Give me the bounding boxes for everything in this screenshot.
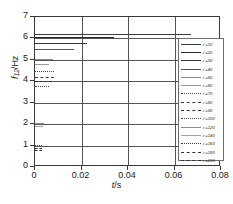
- legend-line-swatch: [181, 160, 201, 161]
- data-trace: [35, 150, 42, 151]
- x-tick-label: 0.02: [61, 170, 101, 180]
- x-tick-label: 0.08: [200, 170, 233, 180]
- grid-line-vertical: [175, 17, 176, 165]
- data-trace: [35, 145, 42, 146]
- legend-line-swatch: [181, 69, 201, 70]
- data-trace: [35, 71, 54, 72]
- legend-item[interactable]: t =90: [180, 106, 222, 114]
- data-trace: [35, 37, 114, 38]
- data-trace: [35, 86, 49, 87]
- y-tick-label: 1: [4, 140, 28, 149]
- legend-line-swatch: [181, 152, 201, 153]
- x-tick-label: 0: [14, 170, 54, 180]
- legend-line-swatch: [181, 77, 201, 78]
- y-tick-label: 2: [4, 118, 28, 127]
- legend-item-label: t =90: [203, 108, 212, 113]
- legend-line-swatch: [181, 127, 201, 128]
- legend-item[interactable]: t =30: [180, 57, 222, 65]
- legend-item-label: t =160: [203, 141, 215, 146]
- legend-item-label: t =180: [203, 150, 215, 155]
- legend-item[interactable]: t =200: [180, 156, 222, 164]
- legend-item-label: t =100: [203, 116, 215, 121]
- legend-item-label: t =120: [203, 125, 215, 130]
- chart-legend: t =10t =20t =30t =40t =50t =60t =70t =80…: [178, 38, 224, 161]
- data-trace: [35, 59, 53, 60]
- legend-item[interactable]: t =50: [180, 73, 222, 81]
- legend-item[interactable]: t =180: [180, 148, 222, 156]
- legend-line-swatch: [181, 135, 201, 136]
- legend-line-swatch: [181, 110, 201, 111]
- legend-item-label: t =80: [203, 100, 212, 105]
- legend-item-label: t =60: [203, 83, 212, 88]
- legend-line-swatch: [181, 118, 201, 119]
- legend-item[interactable]: t =20: [180, 48, 222, 56]
- legend-item[interactable]: t =80: [180, 98, 222, 106]
- figure-container: f12/Hz 01234567 00.020.040.060.08 t/s t …: [0, 0, 233, 204]
- y-tick-label: 0: [4, 161, 28, 170]
- legend-line-swatch: [181, 44, 201, 45]
- legend-line-swatch: [181, 102, 201, 103]
- legend-item[interactable]: t =10: [180, 40, 222, 48]
- legend-line-swatch: [181, 93, 201, 94]
- x-axis-title: t/s: [0, 180, 233, 190]
- legend-item[interactable]: t =120: [180, 123, 222, 131]
- legend-item[interactable]: t =160: [180, 140, 222, 148]
- legend-item-label: t =30: [203, 58, 212, 63]
- legend-item[interactable]: t =100: [180, 115, 222, 123]
- legend-line-swatch: [181, 143, 201, 144]
- x-axis-title-unit: /s: [114, 180, 121, 190]
- legend-item-label: t =40: [203, 67, 212, 72]
- legend-item[interactable]: t =70: [180, 90, 222, 98]
- data-trace: [35, 77, 54, 78]
- legend-item[interactable]: t =140: [180, 131, 222, 139]
- data-trace: [35, 34, 191, 35]
- legend-item-label: t =50: [203, 75, 212, 80]
- data-trace: [35, 49, 74, 50]
- x-tick-label: 0.06: [154, 170, 194, 180]
- legend-item-label: t =200: [203, 158, 215, 163]
- data-trace: [35, 123, 44, 124]
- y-tick-label: 5: [4, 54, 28, 63]
- legend-line-swatch: [181, 60, 201, 61]
- y-tick-label: 4: [4, 75, 28, 84]
- legend-item-label: t =70: [203, 91, 212, 96]
- y-tick-label: 6: [4, 32, 28, 41]
- data-trace: [35, 148, 42, 149]
- y-axis-title: f12/Hz: [10, 32, 21, 102]
- legend-line-swatch: [181, 52, 201, 53]
- data-trace: [35, 43, 87, 44]
- data-trace: [35, 126, 43, 127]
- legend-item-label: t =10: [203, 42, 212, 47]
- legend-item-label: t =140: [203, 133, 215, 138]
- grid-line-vertical: [82, 17, 83, 165]
- y-tick-label: 7: [4, 11, 28, 20]
- legend-line-swatch: [181, 85, 201, 86]
- legend-item[interactable]: t =40: [180, 65, 222, 73]
- y-tick-label: 3: [4, 97, 28, 106]
- data-trace: [35, 64, 49, 65]
- x-tick-label: 0.04: [107, 170, 147, 180]
- grid-line-vertical: [128, 17, 129, 165]
- legend-item[interactable]: t =60: [180, 81, 222, 89]
- data-trace: [35, 81, 52, 82]
- legend-item-label: t =20: [203, 50, 212, 55]
